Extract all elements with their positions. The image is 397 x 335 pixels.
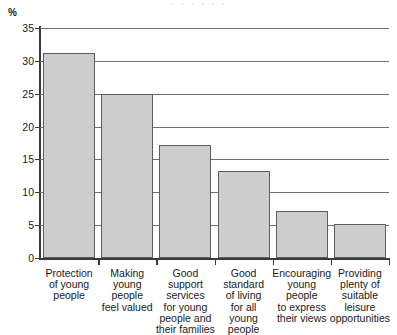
x-axis-tick-mark [273,258,274,265]
x-axis-tick-mark [156,258,157,265]
y-axis-tick-labels: 05101520253035 [0,0,34,329]
x-axis-tick-mark [98,258,99,265]
category-label-line: their families [153,324,217,335]
category-label-line: people [95,290,159,301]
category-label-line: people [270,290,334,301]
y-axis-tick-mark [35,159,40,160]
y-axis-tick-mark [35,61,40,62]
y-axis-tick-label: 5 [4,220,34,230]
x-axis-category-label: Makingyoungpeoplefeel valued [95,268,159,313]
x-axis-category-label: Protectionof youngpeople [37,268,101,302]
bar [276,211,328,258]
category-label-line: feel valued [95,302,159,313]
category-label-line: people [37,290,101,301]
category-label-line: opportunities [328,313,392,324]
x-axis-tick-mark [389,258,390,265]
x-axis-tick-mark [331,258,332,265]
x-axis-category-label: Goodstandardof livingfor allyoungpeople [212,268,276,335]
x-axis-category-label: Encouragingyoungpeopleto expresstheir vi… [270,268,334,324]
gridline [40,28,389,29]
category-label-line: services [153,290,217,301]
y-axis-tick-label: 20 [4,122,34,132]
y-axis-tick-label: 30 [4,56,34,66]
bar [334,224,386,258]
y-axis-tick-label: 35 [4,23,34,33]
y-axis-tick-label: 15 [4,154,34,164]
x-axis-category-labels: Protectionof youngpeopleMakingyoungpeopl… [40,268,392,329]
y-axis-tick-mark [35,225,40,226]
plot-area [40,28,389,258]
bar [218,171,270,258]
y-axis-tick-mark [35,28,40,29]
clipped-title-remnant: · · · · · · [0,0,397,8]
bar [159,145,211,258]
y-axis-tick-mark [35,192,40,193]
y-axis-tick-mark [35,258,40,259]
category-label-line: of living [212,290,276,301]
y-axis-tick-mark [35,127,40,128]
y-axis-tick-label: 10 [4,187,34,197]
y-axis-tick-label: 25 [4,89,34,99]
category-label-line: suitable [328,290,392,301]
x-axis-category-label: Providingplenty ofsuitableleisureopportu… [328,268,392,324]
category-label-line: people [212,324,276,335]
bar [101,94,153,258]
y-axis-tick-mark [35,94,40,95]
category-label-line: their views [270,313,334,324]
y-axis-tick-label: 0 [4,253,34,263]
x-axis-category-label: Goodsupportservicesfor youngpeople andth… [153,268,217,335]
x-axis-tick-mark [215,258,216,265]
bar [43,53,95,258]
